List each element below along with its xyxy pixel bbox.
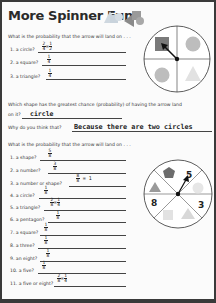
s2-answer-line-7[interactable] — [40, 235, 126, 236]
s2-question-6: 6. a pentagon? — [10, 217, 44, 222]
s2-question-3: 3. a number or shape? — [10, 181, 62, 186]
s2-answer-9: 18 — [46, 249, 50, 258]
s2-answer-8: 18 — [44, 236, 48, 245]
greatest-answer-line[interactable] — [22, 118, 122, 119]
spinner-four-sections — [142, 24, 212, 94]
s1-answer-line-2[interactable] — [42, 65, 126, 66]
s1-answer-3: 14 — [48, 69, 52, 78]
s2-question-8: 8. a three? — [10, 243, 35, 248]
greatest-prompt-line1: Which shape has the greatest chance (pro… — [8, 102, 182, 107]
shapes-decoration-icon — [102, 7, 147, 29]
s2-question-1: 1. a shape? — [10, 155, 36, 160]
worksheet-page: More Spinner Fun What is the probability… — [2, 2, 214, 299]
s1-answer-2: 14 — [47, 55, 51, 64]
greatest-answer: circle — [30, 110, 53, 118]
number-three: 3 — [198, 200, 204, 210]
s2-question-10: 10. a five? — [10, 268, 34, 273]
circle-shape-icon — [186, 37, 201, 52]
s2-answer-line-6[interactable] — [48, 222, 126, 223]
greatest-prompt-line2: on it? — [8, 112, 21, 117]
section1-prompt: What is the probability that the arrow w… — [8, 34, 131, 39]
s2-answer-2: 38 — [53, 162, 57, 171]
section2-prompt: What is the probability that the arrow w… — [8, 142, 131, 147]
s2-answer-1: 58 — [48, 149, 52, 158]
s2-answer-5: 28=14 — [50, 198, 60, 207]
s1-answer-line-1[interactable] — [38, 52, 126, 53]
s2-answer-6: 18 — [56, 211, 60, 220]
s1-question-1: 1. a circle? — [10, 47, 35, 52]
spinner-eight-sections: 5 8 3 — [142, 158, 214, 230]
s2-answer-line-3[interactable] — [69, 186, 126, 187]
circle-shape-icon — [155, 68, 170, 83]
s2-answer-line-1[interactable] — [40, 160, 126, 161]
s2-answer-7: 18 — [44, 223, 48, 232]
s2-answer-line-9[interactable] — [40, 261, 126, 262]
s2-answer-line-8[interactable] — [38, 248, 126, 249]
s1-answer-line-3[interactable] — [46, 79, 126, 80]
s1-answer-1: 24=12 — [42, 42, 52, 51]
square-shape-icon — [163, 210, 173, 220]
s2-answer-3: 88 = 1 — [76, 174, 92, 183]
circle-shape-icon — [193, 183, 204, 194]
why-answer: Because there are two circles — [74, 123, 193, 131]
s1-question-3: 3. a triangle? — [10, 74, 40, 79]
s2-answer-4: 18 — [44, 186, 48, 195]
s2-question-9: 9. an eight? — [10, 256, 37, 261]
s2-question-5: 5. a triangle? — [10, 205, 40, 210]
s2-question-11: 11. a five or eight? — [10, 281, 53, 286]
s2-answer-line-11[interactable] — [54, 286, 126, 287]
why-answer-line[interactable] — [72, 131, 212, 132]
number-eight: 8 — [151, 198, 157, 208]
s2-answer-10: 18 — [42, 261, 46, 270]
s1-question-2: 2. a square? — [10, 60, 38, 65]
why-prompt: Why do you think that? — [8, 125, 62, 130]
s2-question-2: 2. a number? — [10, 168, 41, 173]
s2-question-4: 4. a circle? — [10, 193, 35, 198]
s2-answer-11: 28=14 — [57, 274, 67, 283]
s2-question-7: 7. a square? — [10, 230, 38, 235]
s2-answer-line-10[interactable] — [38, 273, 126, 274]
